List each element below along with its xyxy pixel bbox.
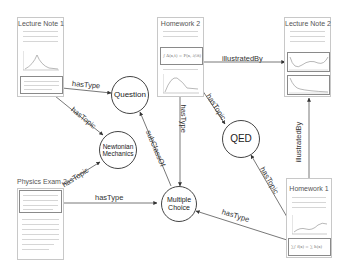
text-line — [290, 36, 325, 37]
document-title: Lecture Note 2 — [285, 20, 330, 27]
document-title: Homework 2 — [158, 20, 203, 27]
formula-text: ∫ A(x,t) = F(x, ∂/∂t) — [163, 53, 201, 58]
text-line — [22, 239, 59, 240]
edge-label-hastype-hw2: hasType — [179, 105, 188, 133]
text-line — [292, 197, 326, 198]
edge-label-hastype-pe2: hasType — [95, 193, 123, 202]
text-line — [292, 202, 326, 203]
chart-thumbnail-icon — [163, 74, 200, 94]
chart-thumbnail-icon — [288, 53, 329, 71]
concept-node-newtonian-mechanics[interactable]: Newtonian Mechanics — [99, 131, 137, 169]
text-line — [22, 224, 59, 225]
document-fragment-formula[interactable]: ∑∫ f(x) = ∑ h(x) — [288, 238, 331, 256]
document-lecture-note-2[interactable]: Lecture Note 2 — [284, 17, 331, 97]
document-title: Physics Exam 2 — [17, 178, 64, 185]
document-title: Homework 1 — [287, 185, 331, 192]
text-line — [22, 234, 59, 235]
text-line — [292, 207, 326, 208]
concept-label: Question — [114, 90, 146, 99]
concept-label-line2: Mechanics — [102, 150, 133, 157]
text-line — [23, 31, 58, 32]
knowledge-graph-diagram: Lecture Note 1 Homework 2 ∫ A(x,t) = F(x… — [0, 0, 348, 273]
text-line — [163, 31, 198, 32]
text-line — [23, 41, 58, 42]
document-lecture-note-1[interactable]: Lecture Note 1 — [17, 17, 64, 97]
text-line — [163, 69, 198, 70]
chart-thumbnail-icon — [288, 76, 329, 94]
document-physics-exam-2[interactable]: Physics Exam 2 — [17, 178, 64, 260]
concept-node-qed[interactable]: QED — [222, 120, 260, 158]
document-homework-1[interactable]: Homework 1 ∑∫ f(x) = ∑ h(x) — [286, 178, 332, 258]
text-line — [290, 31, 325, 32]
concept-label-line2: Choice — [168, 204, 190, 212]
text-line — [22, 229, 59, 230]
edge-label-illustratedby-hw1: illustratedBy — [294, 122, 303, 163]
text-line — [163, 36, 198, 37]
document-title: Lecture Note 1 — [18, 20, 63, 27]
text-line — [290, 41, 325, 42]
document-fragment-chart[interactable] — [287, 52, 330, 72]
document-fragment[interactable] — [19, 190, 62, 213]
concept-node-multiple-choice[interactable]: Multiple Choice — [161, 186, 197, 222]
document-homework-2[interactable]: Homework 2 ∫ A(x,t) = F(x, ∂/∂t) — [157, 17, 204, 97]
concept-label-line1: Multiple — [167, 196, 191, 204]
formula-text: ∑∫ f(x) = ∑ h(x) — [291, 244, 322, 249]
document-fragment-formula[interactable]: ∫ A(x,t) = F(x, ∂/∂t) — [160, 47, 203, 65]
text-line — [22, 219, 59, 220]
chart-thumbnail-icon — [292, 215, 328, 235]
document-fragment[interactable] — [20, 76, 63, 94]
document-fragment-chart[interactable] — [287, 75, 330, 95]
text-line — [23, 36, 58, 37]
concept-label-line1: Newtonian — [103, 143, 134, 150]
text-line — [22, 249, 49, 250]
concept-label: QED — [230, 133, 252, 145]
edge-label-illustratedby-hw2: illustratedBy — [222, 54, 263, 63]
text-line — [22, 244, 54, 245]
chart-thumbnail-icon — [23, 51, 60, 71]
concept-node-question[interactable]: Question — [111, 76, 149, 114]
